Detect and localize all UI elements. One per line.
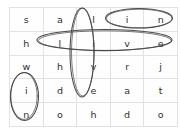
letter-grid-table: s a l i n h l i v e w h v r	[9, 7, 178, 127]
grid-cell-r4c2[interactable]: h	[77, 103, 111, 127]
grid-cell-r3c4[interactable]: t	[144, 79, 178, 103]
grid-row: w h v r j	[10, 55, 178, 79]
grid-cell-r1c4[interactable]: e	[144, 31, 178, 55]
grid-cell-r0c3[interactable]: i	[110, 8, 144, 32]
grid-cell-r3c2[interactable]: e	[77, 79, 111, 103]
word-search-puzzle: s a l i n h l i v e w h v r	[0, 0, 180, 128]
grid-cell-r3c3[interactable]: a	[110, 79, 144, 103]
grid-cell-r1c1[interactable]: l	[43, 31, 77, 55]
grid-row: h l i v e	[10, 31, 178, 55]
grid-cell-r0c1[interactable]: a	[43, 8, 77, 32]
grid-row: s a l i n	[10, 8, 178, 32]
grid-cell-r4c4[interactable]: o	[144, 103, 178, 127]
grid-row: i d e a t	[10, 79, 178, 103]
grid-cell-r1c2[interactable]: i	[77, 31, 111, 55]
grid-cell-r4c0[interactable]: n	[10, 103, 44, 127]
grid-cell-r1c3[interactable]: v	[110, 31, 144, 55]
letter-grid: s a l i n h l i v e w h v r	[9, 7, 172, 121]
grid-cell-r2c0[interactable]: w	[10, 55, 44, 79]
grid-cell-r3c1[interactable]: d	[43, 79, 77, 103]
grid-cell-r3c0[interactable]: i	[10, 79, 44, 103]
grid-cell-r2c1[interactable]: h	[43, 55, 77, 79]
grid-row: n o h d o	[10, 103, 178, 127]
grid-cell-r2c3[interactable]: r	[110, 55, 144, 79]
grid-cell-r2c2[interactable]: v	[77, 55, 111, 79]
grid-cell-r0c2[interactable]: l	[77, 8, 111, 32]
grid-cell-r4c3[interactable]: d	[110, 103, 144, 127]
grid-cell-r0c0[interactable]: s	[10, 8, 44, 32]
grid-cell-r1c0[interactable]: h	[10, 31, 44, 55]
grid-cell-r0c4[interactable]: n	[144, 8, 178, 32]
grid-cell-r4c1[interactable]: o	[43, 103, 77, 127]
grid-cell-r2c4[interactable]: j	[144, 55, 178, 79]
